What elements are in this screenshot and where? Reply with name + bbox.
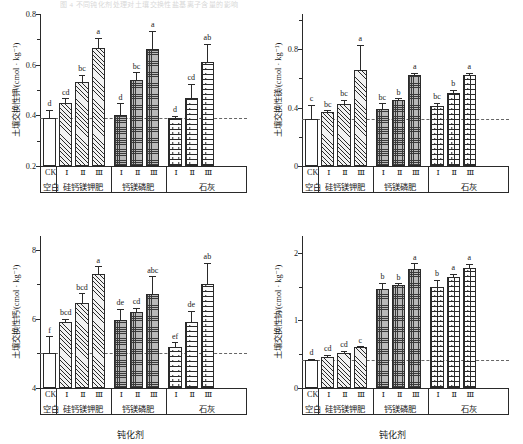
- y-axis-minor-tick: [299, 20, 302, 21]
- error-bar: [207, 44, 208, 62]
- x-axis-group-separator: [318, 179, 319, 193]
- x-axis-category-label: Ⅲ: [197, 166, 219, 179]
- y-axis-tick-label: 0.4: [26, 111, 36, 120]
- bar: [43, 118, 56, 166]
- error-bar: [191, 311, 192, 322]
- x-axis-group-separator: [166, 401, 167, 415]
- bar: [185, 322, 198, 388]
- bar: [59, 103, 72, 166]
- x-axis-group-label: 硅钙镁钾肥: [57, 401, 108, 414]
- error-bar: [82, 75, 83, 83]
- x-axis-category-row: CKⅠⅡⅢⅠⅡⅢⅠⅡⅢ: [302, 388, 509, 401]
- error-bar-cap: [379, 283, 386, 284]
- error-bar-cap: [308, 105, 315, 106]
- x-axis-group-row: 空白硅钙镁钾肥钙镁磷肥石灰: [302, 179, 509, 193]
- x-axis-group-label: 钙镁磷肥: [112, 179, 163, 192]
- error-bar-cap: [450, 274, 457, 275]
- y-axis-tick-label: 4: [32, 384, 36, 393]
- significance-letter: b: [451, 79, 455, 88]
- y-axis-tick-label: 8: [32, 245, 36, 254]
- error-bar-cap: [341, 100, 348, 101]
- figure-root: 图 4 不同钝化剂处理对土壤交换性盐基离子含量的影响 土壤交换性钾/(cmol …: [0, 0, 523, 444]
- x-axis-group-separator: [318, 166, 319, 179]
- significance-letter: cd: [62, 88, 70, 97]
- y-axis-minor-tick: [299, 354, 302, 355]
- x-axis-title: 钝化剂: [262, 428, 523, 441]
- x-axis-group-label: 硅钙镁钾肥: [57, 179, 108, 192]
- y-axis-tick-label: 0.6: [26, 60, 36, 69]
- error-bar: [49, 110, 50, 118]
- y-axis-tick-label: 1: [294, 316, 298, 325]
- x-axis-group-separator: [318, 388, 319, 401]
- y-axis-tick-label: 0.2: [26, 162, 36, 171]
- error-bar-cap: [466, 73, 473, 74]
- significance-letter: ab: [204, 33, 212, 42]
- x-axis-group-label: 硅钙镁钾肥: [319, 401, 370, 414]
- error-bar-cap: [133, 72, 140, 73]
- bar: [75, 82, 88, 166]
- error-bar-cap: [357, 45, 364, 46]
- error-bar: [98, 38, 99, 49]
- y-axis-minor-tick: [299, 287, 302, 288]
- error-bar-cap: [411, 263, 418, 264]
- x-axis-group-row: 空白硅钙镁钾肥钙镁磷肥石灰: [40, 401, 247, 415]
- error-bar: [360, 45, 361, 71]
- x-axis-group-separator: [111, 401, 112, 415]
- significance-letter: bc: [133, 62, 141, 71]
- significance-letter: a: [358, 34, 362, 43]
- error-bar-cap: [395, 283, 402, 284]
- y-axis-tick-label: 0: [294, 162, 298, 171]
- significance-letter: bc: [78, 64, 86, 73]
- y-axis-minor-tick: [37, 39, 40, 40]
- significance-letter: a: [413, 62, 417, 71]
- y-axis-minor-tick: [299, 78, 302, 79]
- significance-letter: a: [96, 256, 100, 265]
- error-bar-cap: [308, 359, 315, 360]
- error-bar: [152, 276, 153, 294]
- significance-letter: bc: [324, 100, 332, 109]
- error-bar: [437, 280, 438, 287]
- y-axis-minor-tick: [37, 284, 40, 285]
- significance-letter: c: [358, 336, 362, 345]
- y-axis-tick-label: 0.4: [288, 103, 298, 112]
- error-bar-cap: [149, 276, 156, 277]
- x-axis-group-separator: [111, 388, 112, 401]
- bar: [168, 118, 181, 166]
- significance-letter: b: [397, 273, 401, 282]
- x-axis-group-separator: [56, 179, 57, 193]
- x-axis-category-label: Ⅲ: [88, 166, 110, 179]
- bar: [321, 112, 334, 166]
- error-bar-cap: [434, 103, 441, 104]
- error-bar-cap: [62, 319, 69, 320]
- error-bar-cap: [324, 110, 331, 111]
- x-axis-group-row: 空白硅钙镁钾肥钙镁磷肥石灰: [40, 179, 247, 193]
- error-bar: [120, 309, 121, 320]
- x-axis-group-separator: [56, 401, 57, 415]
- error-bar-cap: [117, 309, 124, 310]
- significance-letter: cd: [340, 340, 348, 349]
- significance-letter: a: [151, 20, 155, 29]
- bar: [376, 289, 389, 388]
- significance-letter: de: [187, 300, 195, 309]
- x-axis-group-separator: [428, 401, 429, 415]
- y-axis-minor-tick: [299, 137, 302, 138]
- bar: [337, 104, 350, 166]
- bar: [201, 284, 214, 388]
- panel-exchangeable-ca: 土壤交换性钙/(cmol · kg⁻¹)468fbcdbcdadecdabcef…: [0, 222, 261, 444]
- x-axis-category-label: Ⅲ: [143, 388, 165, 401]
- y-axis-line: [302, 14, 303, 166]
- bar: [408, 269, 421, 388]
- error-bar-cap: [149, 31, 156, 32]
- error-bar-cap: [79, 293, 86, 294]
- y-axis-title: 土壤交换性钠/(cmol · kg⁻¹): [270, 236, 284, 388]
- x-axis-category-label: Ⅲ: [350, 388, 372, 401]
- error-bar-cap: [172, 116, 179, 117]
- x-axis-group-row: 空白硅钙镁钾肥钙镁磷肥石灰: [302, 401, 509, 415]
- x-axis-group-separator: [111, 179, 112, 193]
- significance-letter: b: [380, 272, 384, 281]
- error-bar: [136, 72, 137, 80]
- error-bar-cap: [357, 346, 364, 347]
- bar: [354, 70, 367, 166]
- x-axis-group-separator: [373, 401, 374, 415]
- bar: [43, 353, 56, 388]
